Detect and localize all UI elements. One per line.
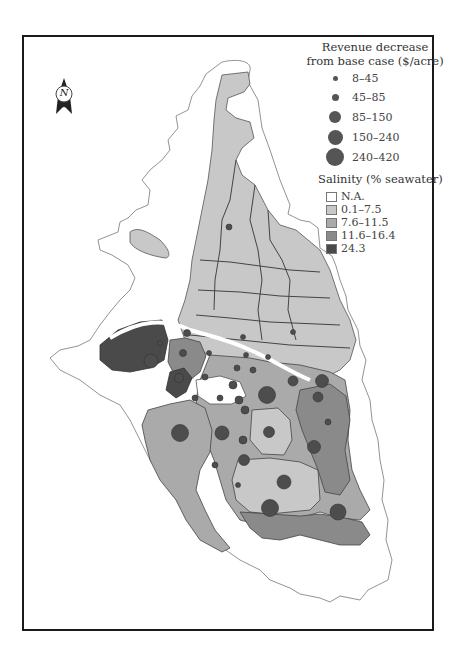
salinity-class-na: N.A.	[326, 190, 448, 203]
revenue-class-3: 85–150	[300, 107, 393, 127]
salinity-class-1: 0.1–7.5	[326, 203, 448, 216]
salinity-class-2: 7.6–11.5	[326, 216, 448, 229]
swatch-icon	[326, 205, 337, 215]
revenue-legend: Revenue decrease from base case ($/acre)…	[300, 40, 450, 168]
salinity-legend: Salinity (% seawater) N.A. 0.1–7.5 7.6–1…	[318, 172, 448, 255]
swatch-icon	[326, 192, 337, 202]
dot-icon	[326, 148, 344, 166]
salinity-class-4: 24.3	[326, 242, 448, 255]
revenue-class-4: 150–240	[300, 127, 400, 147]
revenue-class-2: 45–85	[300, 87, 386, 107]
swatch-icon	[326, 244, 337, 254]
dot-icon	[328, 130, 343, 145]
revenue-legend-title-2: from base case ($/acre)	[300, 54, 450, 68]
salinity-class-3: 11.6–16.4	[326, 229, 448, 242]
revenue-class-5: 240–420	[300, 147, 400, 167]
salinity-legend-title: Salinity (% seawater)	[318, 172, 448, 186]
swatch-icon	[326, 218, 337, 228]
north-label: N	[58, 87, 70, 98]
dot-icon	[329, 111, 341, 123]
revenue-legend-title-1: Revenue decrease	[300, 40, 450, 54]
swatch-icon	[326, 231, 337, 241]
revenue-class-1: 8–45	[300, 68, 379, 88]
dot-icon	[333, 76, 338, 81]
dot-icon	[332, 94, 339, 101]
